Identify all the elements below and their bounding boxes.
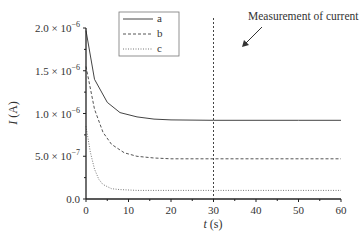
- y-tick-label: 1.0 × 10−6: [35, 106, 80, 120]
- series-line-b: [86, 67, 341, 159]
- x-axis-label: t (s): [203, 217, 222, 231]
- x-tick-label: 20: [166, 204, 178, 216]
- x-tick-label: 60: [336, 204, 348, 216]
- x-tick-label: 50: [293, 204, 305, 216]
- x-tick-label: 40: [251, 204, 263, 216]
- legend-label-b: b: [157, 27, 163, 39]
- tick-labels: 01020304050600.05.0 × 10−71.0 × 10−61.5 …: [35, 20, 347, 216]
- legend-label-c: c: [157, 42, 162, 54]
- x-tick-label: 10: [123, 204, 135, 216]
- y-tick-label: 1.5 × 10−6: [35, 63, 80, 77]
- y-tick-label: 0.0: [66, 193, 80, 205]
- legend-label-a: a: [157, 12, 162, 24]
- legend: a b c: [119, 12, 179, 56]
- y-axis-label: I (A): [6, 101, 20, 126]
- x-tick-label: 0: [83, 204, 89, 216]
- y-tick-label: 2.0 × 10−6: [35, 20, 80, 34]
- annotation-arrow-icon: [242, 27, 262, 47]
- y-tick-label: 5.0 × 10−7: [35, 148, 80, 162]
- x-tick-label: 30: [208, 204, 220, 216]
- annotation-text: Measurement of current: [248, 10, 359, 22]
- current-vs-time-chart: 01020304050600.05.0 × 10−71.0 × 10−61.5 …: [0, 0, 359, 242]
